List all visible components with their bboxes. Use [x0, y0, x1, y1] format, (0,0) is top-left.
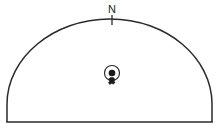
- site-marker-center-dot-icon: [109, 70, 116, 77]
- north-label: N: [108, 3, 116, 15]
- plan-drawing-canvas: N: [0, 0, 222, 131]
- site-plan-diagram: N: [0, 0, 222, 131]
